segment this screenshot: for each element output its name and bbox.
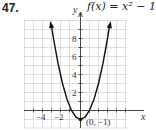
axis-ticks [34, 30, 126, 113]
x-axis-label: x [140, 111, 146, 122]
parabola-graph: −4 −2 8 6 4 2 y x (0, −1) [0, 0, 156, 131]
vertex-point [79, 118, 83, 122]
x-tick-label: −2 [54, 112, 64, 122]
y-tick-label: 8 [72, 34, 77, 44]
y-tick-label: 2 [72, 88, 77, 98]
y-tick-label: 4 [72, 70, 77, 80]
y-tick-label: 6 [72, 52, 77, 62]
x-tick-label: −4 [36, 112, 46, 122]
y-axis-label: y [72, 4, 78, 15]
vertex-label: (0, −1) [86, 117, 111, 127]
